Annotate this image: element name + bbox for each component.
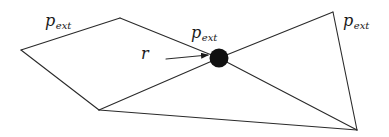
mesh-diagram: pextpextpextr bbox=[0, 0, 389, 137]
arrow-icon bbox=[166, 55, 208, 59]
edge-bottom_left-center bbox=[99, 58, 219, 110]
edge-left-bottom_left bbox=[21, 50, 99, 110]
label-p-ext-right: pext bbox=[343, 11, 370, 31]
edge-center-top_right bbox=[219, 12, 333, 58]
edge-center-bottom_right bbox=[219, 58, 357, 130]
edge-bottom_left-bottom_right bbox=[99, 110, 357, 130]
diagram-canvas: pextpextpextr bbox=[0, 0, 389, 137]
mesh-edges bbox=[21, 12, 357, 130]
label-p-ext-center: pext bbox=[191, 23, 218, 43]
label-r-label: r bbox=[141, 44, 150, 63]
label-p-ext-left: pext bbox=[45, 11, 72, 31]
central-node-r bbox=[210, 49, 229, 68]
